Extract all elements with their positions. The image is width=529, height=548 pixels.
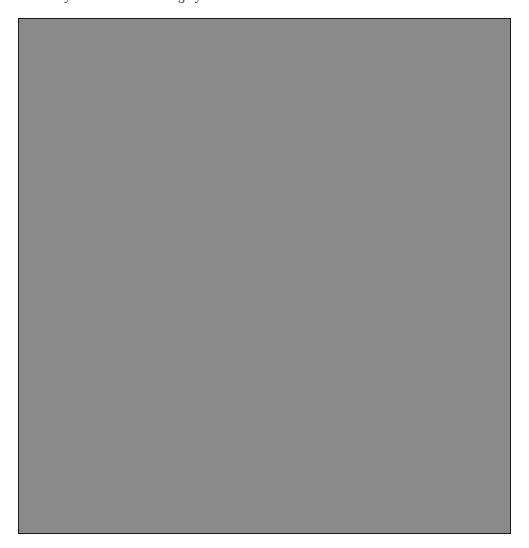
- noise-fallback-fill: [19, 19, 510, 533]
- figure-caption: uniformly distributed random grayscale v…: [18, 0, 265, 3]
- figure-caption-clip: uniformly distributed random grayscale v…: [0, 0, 529, 4]
- page-canvas: uniformly distributed random grayscale v…: [0, 0, 529, 548]
- noise-figure-box: [18, 18, 511, 534]
